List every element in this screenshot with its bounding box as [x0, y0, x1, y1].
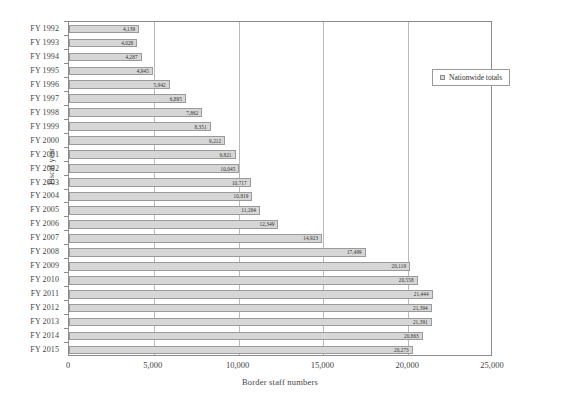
bar-row[interactable]: 9,821: [69, 150, 491, 159]
y-axis-tick-label: FY 1994: [30, 51, 59, 60]
y-axis-tick-label: FY 2015: [30, 345, 59, 354]
bar-value-label: 21,394: [413, 305, 428, 311]
bar-value-label: 4,287: [126, 54, 138, 60]
bar-value-label: 10,819: [234, 193, 249, 199]
bar-value-label: 20,273: [394, 347, 409, 353]
y-axis-tick-label: FY 2014: [30, 331, 59, 340]
x-axis-title: Border staff numbers: [68, 377, 492, 387]
bar-row[interactable]: 9,212: [69, 136, 491, 145]
bar[interactable]: 5,942: [69, 80, 170, 89]
bar-row[interactable]: 10,819: [69, 192, 491, 201]
x-axis-tick-label: 20,000: [396, 360, 419, 370]
bar-row[interactable]: 17,499: [69, 248, 491, 257]
y-axis-tick-label: FY 1995: [30, 65, 59, 74]
bar-row[interactable]: 10,717: [69, 178, 491, 187]
y-axis-tick-label: FY 2004: [30, 191, 59, 200]
bar[interactable]: 20,863: [69, 332, 423, 341]
bar-row[interactable]: 20,863: [69, 332, 491, 341]
x-axis-tick-label: 5,000: [143, 360, 162, 370]
x-axis-tick-labels: 05,00010,00015,00020,00025,000: [0, 360, 570, 374]
plot-area: 4,1394,0284,2874,9455,9426,8957,8628,351…: [68, 21, 492, 356]
y-axis-tick-label: FY 2002: [30, 163, 59, 172]
bar[interactable]: 20,273: [69, 346, 413, 355]
y-axis-tick-label: FY 2010: [30, 275, 59, 284]
bar-value-label: 14,923: [303, 235, 318, 241]
bar-value-label: 6,895: [170, 96, 182, 102]
bar-value-label: 21,444: [414, 291, 429, 297]
bar-value-label: 20,863: [404, 333, 419, 339]
bar-row[interactable]: 11,264: [69, 206, 491, 215]
bar-row[interactable]: 4,945: [69, 67, 491, 76]
bar[interactable]: 9,212: [69, 136, 225, 145]
y-axis-tick-label: FY 1997: [30, 93, 59, 102]
bar-value-label: 11,264: [241, 207, 256, 213]
y-axis-tick-label: FY 2005: [30, 205, 59, 214]
bar[interactable]: 20,119: [69, 262, 410, 271]
bar-row[interactable]: 4,028: [69, 39, 491, 48]
bar[interactable]: 4,287: [69, 53, 142, 62]
y-axis-tick-label: FY 1992: [30, 23, 59, 32]
chart-legend: Nationwide totals: [432, 69, 510, 86]
y-axis-tick-labels: FY 1992FY 1993FY 1994FY 1995FY 1996FY 19…: [0, 21, 64, 356]
bar[interactable]: 21,444: [69, 290, 433, 299]
y-axis-tick-label: FY 2013: [30, 317, 59, 326]
bar-value-label: 5,942: [154, 82, 166, 88]
y-axis-tick-label: FY 2008: [30, 247, 59, 256]
bar[interactable]: 14,923: [69, 234, 322, 243]
bar[interactable]: 7,862: [69, 108, 202, 117]
bar-value-label: 20,558: [399, 277, 414, 283]
bar-row[interactable]: 20,558: [69, 276, 491, 285]
bar[interactable]: 20,558: [69, 276, 418, 285]
bar-row[interactable]: 10,045: [69, 164, 491, 173]
bar[interactable]: 21,391: [69, 318, 432, 327]
y-axis-tick-label: FY 1993: [30, 37, 59, 46]
bar-value-label: 4,028: [121, 40, 133, 46]
x-axis-tick-label: 0: [66, 360, 70, 370]
y-axis-tick-label: FY 2009: [30, 261, 59, 270]
x-axis-tick-label: 15,000: [311, 360, 334, 370]
bar[interactable]: 11,264: [69, 206, 260, 215]
y-axis-tick-label: FY 1996: [30, 79, 59, 88]
y-axis-tick-label: FY 2007: [30, 233, 59, 242]
y-axis-tick-label: FY 2001: [30, 149, 59, 158]
bar-row[interactable]: 7,862: [69, 108, 491, 117]
bar-value-label: 7,862: [186, 110, 198, 116]
y-axis-tick-label: FY 1998: [30, 107, 59, 116]
bar-row[interactable]: 4,139: [69, 25, 491, 34]
bar-row[interactable]: 5,942: [69, 80, 491, 89]
legend-label: Nationwide totals: [449, 73, 502, 82]
y-axis-tick-label: FY 2003: [30, 177, 59, 186]
bar[interactable]: 17,499: [69, 248, 366, 257]
y-axis-tick-label: FY 2012: [30, 303, 59, 312]
bar-row[interactable]: 21,444: [69, 290, 491, 299]
bar-value-label: 9,212: [209, 138, 221, 144]
bar-row[interactable]: 20,273: [69, 346, 491, 355]
bar[interactable]: 10,717: [69, 178, 251, 187]
bar[interactable]: 10,045: [69, 164, 239, 173]
bar-row[interactable]: 4,287: [69, 53, 491, 62]
bar-row[interactable]: 21,394: [69, 304, 491, 313]
bar[interactable]: 21,394: [69, 304, 432, 313]
bar-value-label: 10,045: [220, 166, 235, 172]
y-axis-tick-label: FY 1999: [30, 121, 59, 130]
bar-value-label: 20,119: [392, 263, 407, 269]
bar[interactable]: 10,819: [69, 192, 252, 201]
bar[interactable]: 4,028: [69, 39, 137, 48]
bar[interactable]: 8,351: [69, 122, 211, 131]
bar-row[interactable]: 12,349: [69, 220, 491, 229]
bar-value-label: 9,821: [219, 152, 231, 158]
bar[interactable]: 6,895: [69, 94, 186, 103]
bar-value-label: 21,391: [413, 319, 428, 325]
bar[interactable]: 9,821: [69, 150, 236, 159]
bar[interactable]: 12,349: [69, 220, 278, 229]
bar-row[interactable]: 6,895: [69, 94, 491, 103]
bar-chart: Fiscal year FY 1992FY 1993FY 1994FY 1995…: [0, 0, 570, 396]
y-axis-tick-label: FY 2000: [30, 135, 59, 144]
bar-row[interactable]: 21,391: [69, 318, 491, 327]
bar-row[interactable]: 20,119: [69, 262, 491, 271]
bar[interactable]: 4,139: [69, 25, 139, 34]
bar-value-label: 4,945: [137, 68, 149, 74]
bar[interactable]: 4,945: [69, 67, 153, 76]
bar-row[interactable]: 14,923: [69, 234, 491, 243]
bar-row[interactable]: 8,351: [69, 122, 491, 131]
